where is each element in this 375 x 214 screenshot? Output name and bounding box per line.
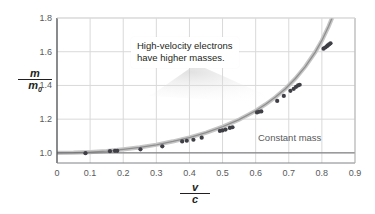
data-point	[191, 138, 195, 142]
data-point	[138, 147, 142, 151]
y-tick-label: 1.4	[27, 80, 52, 90]
x-tick-label: 0.1	[84, 168, 97, 178]
data-point	[298, 83, 302, 87]
data-point	[200, 136, 204, 140]
data-point	[259, 109, 263, 113]
x-tick-label: 0.2	[117, 168, 130, 178]
x-tick-label: 0.9	[349, 168, 362, 178]
x-tick-label: 0	[54, 168, 59, 178]
data-point	[230, 125, 234, 129]
data-point	[328, 41, 332, 45]
y-tick-label: 1.0	[27, 148, 52, 158]
data-point	[275, 99, 279, 103]
data-point	[223, 128, 227, 132]
data-point	[108, 149, 112, 153]
data-point	[180, 139, 184, 143]
callout-annotation: High-velocity electrons have higher mass…	[131, 37, 239, 68]
x-axis-denominator: c	[180, 194, 210, 205]
callout-line-2: have higher masses.	[137, 52, 233, 64]
y-tick-label: 1.2	[27, 114, 52, 124]
data-point	[185, 139, 189, 143]
x-tick-label: 0.3	[150, 168, 163, 178]
y-tick-label: 1.6	[27, 47, 52, 57]
data-point	[282, 94, 286, 98]
data-point	[115, 149, 119, 153]
x-tick-label: 0.7	[283, 168, 296, 178]
data-point	[160, 144, 164, 148]
callout-line-1: High-velocity electrons	[137, 40, 233, 52]
data-point	[83, 151, 87, 155]
x-tick-label: 0.6	[249, 168, 262, 178]
constant-mass-label: Constant mass	[258, 132, 321, 143]
x-tick-label: 0.4	[183, 168, 196, 178]
x-tick-label: 0.8	[316, 168, 329, 178]
relativistic-mass-chart: m m0 v c 00.10.20.30.40.50.60.70.80.9 1.…	[0, 0, 375, 214]
x-tick-label: 0.5	[216, 168, 229, 178]
y-tick-label: 1.8	[27, 13, 52, 23]
x-axis-label: v c	[180, 182, 210, 205]
